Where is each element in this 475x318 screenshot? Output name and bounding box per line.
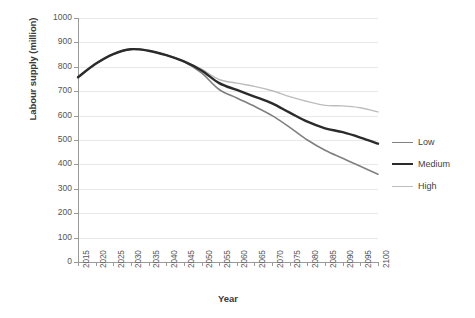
- y-tick-label: 0: [36, 256, 72, 266]
- x-tick-mark: [325, 262, 326, 266]
- x-tick-mark: [149, 262, 150, 266]
- x-tick-mark: [184, 262, 185, 266]
- legend-item-high[interactable]: High: [392, 175, 472, 197]
- x-tick-label: 2030: [134, 250, 143, 268]
- x-tick-label: 2070: [276, 250, 285, 268]
- x-tick-label: 2090: [346, 250, 355, 268]
- y-tick-label-wrap: 1000: [30, 12, 72, 24]
- chart-legend: Low Medium High: [392, 131, 472, 197]
- x-tick-mark: [96, 262, 97, 266]
- x-tick-mark: [131, 262, 132, 266]
- x-tick-label: 2100: [382, 250, 391, 268]
- x-tick-mark: [202, 262, 203, 266]
- legend-swatch-medium-icon: [392, 163, 413, 165]
- x-tick-mark: [272, 262, 273, 266]
- x-tick-label: 2095: [364, 250, 373, 268]
- y-tick-label: 100: [36, 232, 72, 242]
- x-tick-label: 2015: [82, 250, 91, 268]
- y-tick-label-wrap: 700: [30, 85, 72, 97]
- x-tick-mark: [78, 262, 79, 266]
- x-tick-label: 2065: [258, 250, 267, 268]
- series-line-high: [78, 49, 378, 112]
- x-tick-label: 2025: [117, 250, 126, 268]
- series-lines: [78, 18, 378, 262]
- x-tick-mark: [378, 262, 379, 266]
- x-tick-mark: [307, 262, 308, 266]
- y-tick-label: 900: [36, 36, 72, 46]
- y-tick-label-wrap: 200: [30, 207, 72, 219]
- y-tick-label-wrap: 100: [30, 232, 72, 244]
- legend-swatch-low-icon: [392, 142, 413, 143]
- x-tick-mark: [166, 262, 167, 266]
- y-tick-label: 800: [36, 61, 72, 71]
- legend-item-medium[interactable]: Medium: [392, 153, 472, 175]
- y-tick-label: 400: [36, 158, 72, 168]
- y-tick-label-wrap: 0: [30, 256, 72, 268]
- x-tick-mark: [237, 262, 238, 266]
- y-tick-label-wrap: 600: [30, 110, 72, 122]
- x-tick-label: 2055: [223, 250, 232, 268]
- y-tick-label-wrap: 500: [30, 134, 72, 146]
- y-tick-label: 1000: [36, 12, 72, 22]
- legend-item-low[interactable]: Low: [392, 131, 472, 153]
- x-tick-label: 2020: [99, 250, 108, 268]
- plot-area: [78, 18, 378, 262]
- y-tick-label: 300: [36, 183, 72, 193]
- x-tick-mark: [360, 262, 361, 266]
- legend-label-high: High: [418, 181, 437, 191]
- x-tick-label: 2085: [329, 250, 338, 268]
- x-tick-mark: [290, 262, 291, 266]
- legend-swatch-high-icon: [392, 186, 413, 187]
- y-tick-label: 700: [36, 85, 72, 95]
- x-tick-mark: [113, 262, 114, 266]
- x-tick-label: 2045: [187, 250, 196, 268]
- x-tick-mark: [254, 262, 255, 266]
- series-line-medium: [78, 49, 378, 144]
- x-axis-title: Year: [78, 293, 378, 304]
- x-tick-label: 2075: [293, 250, 302, 268]
- y-tick-label-wrap: 300: [30, 183, 72, 195]
- y-tick-label: 200: [36, 207, 72, 217]
- y-tick-label-wrap: 900: [30, 36, 72, 48]
- x-tick-label: 2050: [205, 250, 214, 268]
- x-tick-label: 2080: [311, 250, 320, 268]
- y-tick-label-wrap: 400: [30, 158, 72, 170]
- x-tick-mark: [219, 262, 220, 266]
- y-tick-label-wrap: 800: [30, 61, 72, 73]
- x-tick-mark: [343, 262, 344, 266]
- legend-label-medium: Medium: [418, 159, 450, 169]
- series-line-low: [78, 49, 378, 174]
- y-tick-label: 600: [36, 110, 72, 120]
- x-tick-label: 2040: [170, 250, 179, 268]
- x-tick-label: 2035: [152, 250, 161, 268]
- y-tick-label: 500: [36, 134, 72, 144]
- legend-label-low: Low: [418, 137, 435, 147]
- x-tick-label: 2060: [240, 250, 249, 268]
- labour-supply-line-chart: Labour supply (million) 1000900800700600…: [0, 0, 475, 318]
